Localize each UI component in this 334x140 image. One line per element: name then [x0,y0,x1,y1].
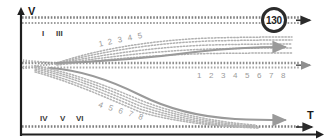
zone-label-i: I [42,30,44,38]
series-number-right-8: 8 [281,72,285,80]
x-axis-label: T [307,110,314,121]
lower-solid-curve [50,68,285,120]
zone-label-v: V [60,115,65,123]
zone-label-iii: III [56,30,63,38]
lower-limit-band [22,127,312,128]
series-number-right-4: 4 [233,72,237,80]
speed-limit-badge: 130 [261,7,287,33]
series-number-right-3: 3 [221,72,225,80]
series-number-right-6: 6 [257,72,261,80]
series-number-right-7: 7 [269,72,273,80]
series-number-right-2: 2 [209,72,213,80]
y-axis [17,7,25,136]
series-number-right-5: 5 [245,72,249,80]
schematic-diagram: V T 130 I III IV V VI 1 2 3 4 5 1 2 3 4 … [0,0,334,140]
zone-label-vi: VI [76,115,84,123]
zone-label-iv: IV [40,115,48,123]
y-axis-label: V [28,6,35,17]
x-axis [21,131,324,139]
series-number-right-1: 1 [197,72,201,80]
lower-solid-series [50,68,285,120]
